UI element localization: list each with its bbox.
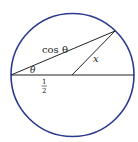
half-denominator: 2 bbox=[42, 87, 46, 95]
circle-diagram: cos θ θ x 1 2 bbox=[0, 0, 138, 142]
segment-x-label: x bbox=[93, 53, 99, 64]
chord-label: cos θ bbox=[42, 44, 68, 55]
half-numerator: 1 bbox=[42, 78, 46, 86]
angle-label: θ bbox=[30, 65, 36, 75]
